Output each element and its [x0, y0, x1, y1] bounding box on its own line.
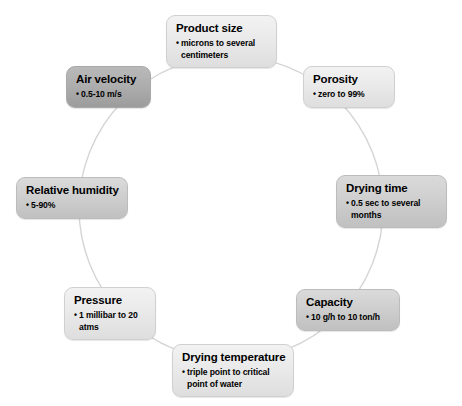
node-capacity-bullets: 10 g/h to 10 ton/h [306, 312, 391, 323]
node-relative-humidity[interactable]: Relative humidity 5-90% [16, 177, 128, 219]
node-pressure-title: Pressure [74, 294, 147, 307]
node-capacity-title: Capacity [306, 296, 391, 309]
node-drying-time-bullets: 0.5 sec to several months [346, 198, 438, 221]
node-pressure[interactable]: Pressure 1 millibar to 20 atms [64, 287, 156, 340]
node-relative-humidity-title: Relative humidity [26, 184, 119, 197]
node-air-velocity[interactable]: Air velocity 0.5-10 m/s [66, 66, 151, 108]
node-capacity[interactable]: Capacity 10 g/h to 10 ton/h [296, 289, 400, 331]
node-air-velocity-title: Air velocity [76, 73, 142, 86]
node-air-velocity-bullets: 0.5-10 m/s [76, 89, 142, 100]
node-porosity-bullet-1: zero to 99% [313, 89, 386, 100]
node-air-velocity-bullet-1: 0.5-10 m/s [76, 89, 142, 100]
node-drying-temperature[interactable]: Drying temperature triple point to criti… [172, 344, 294, 397]
node-relative-humidity-bullet-1: 5-90% [26, 200, 119, 211]
cycle-diagram: Product size microns to several centimet… [0, 0, 462, 406]
node-drying-temperature-bullets: triple point to critical point of water [182, 367, 285, 390]
node-product-size-title: Product size [176, 22, 268, 35]
node-drying-time-title: Drying time [346, 182, 438, 195]
node-porosity[interactable]: Porosity zero to 99% [303, 66, 395, 108]
node-drying-time-bullet-1: 0.5 sec to several months [346, 198, 438, 221]
node-pressure-bullet-1: 1 millibar to 20 atms [74, 310, 147, 333]
node-drying-temperature-title: Drying temperature [182, 351, 285, 364]
node-product-size[interactable]: Product size microns to several centimet… [166, 15, 277, 68]
node-product-size-bullet-1: microns to several centimeters [176, 38, 268, 61]
node-product-size-bullets: microns to several centimeters [176, 38, 268, 61]
node-relative-humidity-bullets: 5-90% [26, 200, 119, 211]
node-porosity-title: Porosity [313, 73, 386, 86]
node-capacity-bullet-1: 10 g/h to 10 ton/h [306, 312, 391, 323]
node-pressure-bullets: 1 millibar to 20 atms [74, 310, 147, 333]
node-porosity-bullets: zero to 99% [313, 89, 386, 100]
node-drying-temperature-bullet-1: triple point to critical point of water [182, 367, 285, 390]
node-drying-time[interactable]: Drying time 0.5 sec to several months [336, 175, 447, 228]
